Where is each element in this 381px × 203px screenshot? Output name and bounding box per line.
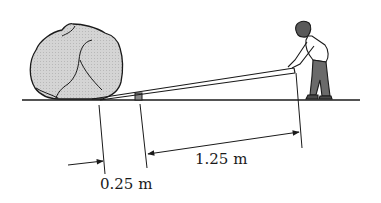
- person: [288, 21, 332, 99]
- lever-diagram: 1.25 m 0.25 m: [0, 0, 381, 203]
- short-arm-label: 0.25 m: [100, 175, 152, 193]
- long-arm-label: 1.25 m: [195, 150, 247, 168]
- boulder: [30, 24, 122, 99]
- diagram-canvas: [0, 0, 381, 203]
- short-arm-arrow: [68, 161, 103, 165]
